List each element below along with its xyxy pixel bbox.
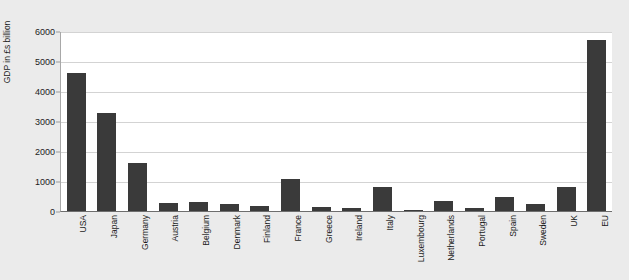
bar: [465, 208, 484, 211]
y-tick-label: 4000: [35, 87, 55, 97]
y-axis-tick-labels: 0100020003000400050006000: [18, 32, 60, 212]
bar: [404, 210, 423, 211]
x-label-slot: Greece: [305, 213, 336, 280]
bar-slot: [367, 31, 398, 211]
bar: [189, 202, 208, 211]
y-tick-label: 1000: [35, 177, 55, 187]
x-tick-label: France: [294, 215, 303, 241]
x-tick-label: Spain: [509, 215, 518, 237]
bar-slot: [183, 31, 214, 211]
top-cutoff-text: [8, 0, 608, 5]
y-tick-label: 3000: [35, 117, 55, 127]
bar-slot: [459, 31, 490, 211]
bar: [220, 204, 239, 211]
bar: [526, 204, 545, 211]
x-label-slot: Finland: [244, 213, 275, 280]
bar-slot: [122, 31, 153, 211]
bar: [587, 40, 606, 211]
x-tick-label: Greece: [325, 215, 334, 243]
x-label-slot: UK: [551, 213, 582, 280]
bar-slot: [92, 31, 123, 211]
bar-slot: [275, 31, 306, 211]
x-label-slot: Belgium: [183, 213, 214, 280]
bar-slot: [520, 31, 551, 211]
bar: [250, 206, 269, 211]
y-axis-title: GDP in £s billion: [2, 0, 16, 112]
bar-slot: [581, 31, 612, 211]
x-label-slot: France: [275, 213, 306, 280]
bar-chart-figure: GDP in £s billion 0100020003000400050006…: [0, 12, 629, 280]
x-tick-label: Austria: [171, 215, 180, 241]
x-tick-label: Japan: [110, 215, 119, 238]
x-tick-label: EU: [601, 215, 610, 227]
y-tick-label: 5000: [35, 57, 55, 67]
x-tick-label: Finland: [263, 215, 272, 243]
bar: [434, 201, 453, 211]
bar: [281, 179, 300, 211]
plot-area: [60, 32, 612, 212]
x-label-slot: Italy: [367, 213, 398, 280]
x-label-slot: Austria: [152, 213, 183, 280]
bar: [312, 207, 331, 211]
x-label-slot: Netherlands: [428, 213, 459, 280]
bar: [67, 73, 86, 211]
y-tick-label: 0: [50, 207, 55, 217]
x-tick-label: Portugal: [478, 215, 487, 247]
x-tick-label: Belgium: [202, 215, 211, 246]
x-tick-label: Netherlands: [447, 215, 456, 261]
y-tick-label: 6000: [35, 27, 55, 37]
x-tick-label: Italy: [386, 215, 395, 231]
bar: [97, 113, 116, 211]
bar: [495, 197, 514, 211]
x-tick-label: USA: [79, 215, 88, 232]
bar: [128, 163, 147, 211]
bar-slot: [336, 31, 367, 211]
x-label-slot: Ireland: [336, 213, 367, 280]
bar: [342, 208, 361, 211]
bar: [373, 187, 392, 211]
bar-slot: [490, 31, 521, 211]
x-label-slot: Sweden: [520, 213, 551, 280]
x-label-slot: Luxembourg: [397, 213, 428, 280]
x-label-slot: USA: [60, 213, 91, 280]
bar-slot: [61, 31, 92, 211]
x-label-slot: Germany: [121, 213, 152, 280]
x-label-slot: Denmark: [213, 213, 244, 280]
bar-slot: [398, 31, 429, 211]
bar: [159, 203, 178, 211]
x-tick-label: UK: [570, 215, 579, 227]
bar-series: [61, 31, 612, 211]
x-label-slot: Japan: [91, 213, 122, 280]
bar-slot: [214, 31, 245, 211]
bar-slot: [551, 31, 582, 211]
bar-slot: [428, 31, 459, 211]
x-axis-tick-labels: USAJapanGermanyAustriaBelgiumDenmarkFinl…: [60, 213, 612, 280]
x-tick-label: Denmark: [233, 215, 242, 249]
x-tick-label: Ireland: [355, 215, 364, 241]
bar-slot: [153, 31, 184, 211]
bar-slot: [245, 31, 276, 211]
x-tick-label: Germany: [141, 215, 150, 250]
x-tick-label: Sweden: [539, 215, 548, 246]
bar-slot: [306, 31, 337, 211]
x-tick-label: Luxembourg: [417, 215, 426, 262]
x-label-slot: Portugal: [459, 213, 490, 280]
bar: [557, 187, 576, 211]
x-label-slot: EU: [581, 213, 612, 280]
x-label-slot: Spain: [489, 213, 520, 280]
y-tick-label: 2000: [35, 147, 55, 157]
